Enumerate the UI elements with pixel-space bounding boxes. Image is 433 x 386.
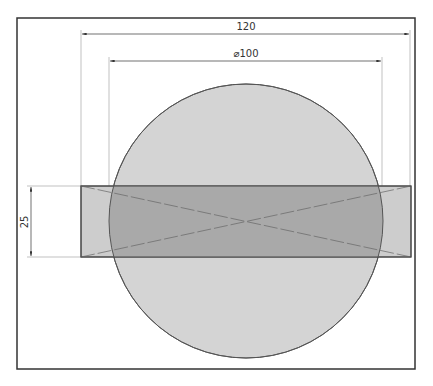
- dimension-label-diameter[interactable]: ⌀100: [233, 48, 258, 59]
- dimension-label-width[interactable]: 120: [236, 21, 255, 32]
- overlap-region: [81, 186, 411, 257]
- dimension-label-height[interactable]: 25: [19, 216, 30, 229]
- cad-drawing: 120 ⌀100 25: [0, 0, 433, 386]
